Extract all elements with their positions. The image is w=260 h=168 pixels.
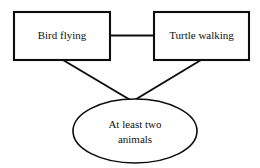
edge-bird-to-animals bbox=[63, 60, 132, 101]
node-bird-flying[interactable]: Bird flying bbox=[14, 12, 110, 60]
at-least-two-animals-ellipse[interactable] bbox=[73, 99, 197, 163]
bird-flying-label: Bird flying bbox=[38, 29, 87, 41]
node-turtle-walking[interactable]: Turtle walking bbox=[154, 12, 249, 60]
at-least-two-animals-label-line-1: At least two bbox=[108, 118, 162, 130]
diagram-canvas: Bird flying Turtle walking At least two … bbox=[0, 0, 260, 168]
turtle-walking-label: Turtle walking bbox=[169, 29, 234, 41]
edge-turtle-to-animals bbox=[133, 60, 201, 101]
node-at-least-two-animals[interactable]: At least two animals bbox=[73, 99, 197, 163]
at-least-two-animals-label-line-2: animals bbox=[118, 133, 152, 145]
